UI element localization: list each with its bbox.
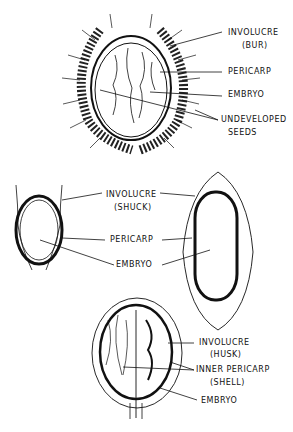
label-involucre-husk: INVOLUCRE [199,338,250,348]
walnut-figure [92,298,197,419]
label-pericarp-1: PERICARP [228,67,271,77]
label-embryo-3: EMBRYO [201,396,237,406]
label-seeds: SEEDS [228,128,257,138]
shuck-figure-large [160,172,253,330]
label-embryo-1: EMBRYO [228,90,264,100]
label-inner-pericarp: INNER PERICARP [196,365,270,375]
label-involucre-bur-sub: (BUR) [242,41,268,51]
label-embryo-2: EMBRYO [116,260,152,270]
label-involucre-husk-sub: (HUSK) [210,350,241,360]
label-involucre-bur: INVOLUCRE [228,28,279,38]
bur-figure [62,14,222,150]
label-undeveloped: UNDEVELOPED [221,115,287,125]
label-involucre-shuck: INVOLUCRE [106,190,157,200]
label-inner-pericarp-sub: (SHELL) [210,378,245,388]
label-pericarp-2: PERICARP [110,235,153,245]
label-involucre-shuck-sub: (SHUCK) [114,203,152,213]
shuck-figure-small [16,185,114,270]
